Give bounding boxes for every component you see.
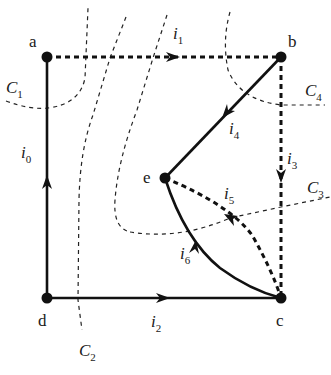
edge-i5-label: i5 <box>224 184 235 206</box>
cutset-c4-label: C4 <box>305 81 322 103</box>
node-d <box>42 293 53 304</box>
cutset-c3-label: C3 <box>307 178 324 200</box>
node-a-label: a <box>29 32 37 51</box>
edge-i3-label: i3 <box>287 149 298 171</box>
edge-i4 <box>165 57 281 178</box>
node-d-label: d <box>38 311 47 330</box>
cutset-c2-label: C2 <box>79 341 96 363</box>
node-b <box>276 52 287 63</box>
edge-i6 <box>165 178 281 298</box>
cutset-c1-label: C1 <box>6 78 23 100</box>
edge-i1-label: i1 <box>173 24 183 46</box>
cutset-c2b-curve <box>115 15 167 232</box>
node-b-label: b <box>288 32 297 51</box>
circuit-graph: a b c d e i0 i1 i2 i3 i4 i5 i6 C1 C2 C3 … <box>0 0 331 375</box>
node-c-label: c <box>276 311 284 330</box>
arrow-i3-icon <box>276 169 286 183</box>
node-a <box>42 52 53 63</box>
node-c <box>276 293 287 304</box>
edge-i5 <box>165 178 281 298</box>
node-e <box>160 173 171 184</box>
edge-i0-label: i0 <box>21 143 32 165</box>
arrow-i6-icon <box>189 240 199 254</box>
node-e-label: e <box>143 168 151 187</box>
cutset-c2-curve <box>78 17 126 330</box>
edge-i6-label: i6 <box>180 244 191 266</box>
edge-i4-label: i4 <box>229 119 240 141</box>
edge-i2-label: i2 <box>151 312 161 334</box>
